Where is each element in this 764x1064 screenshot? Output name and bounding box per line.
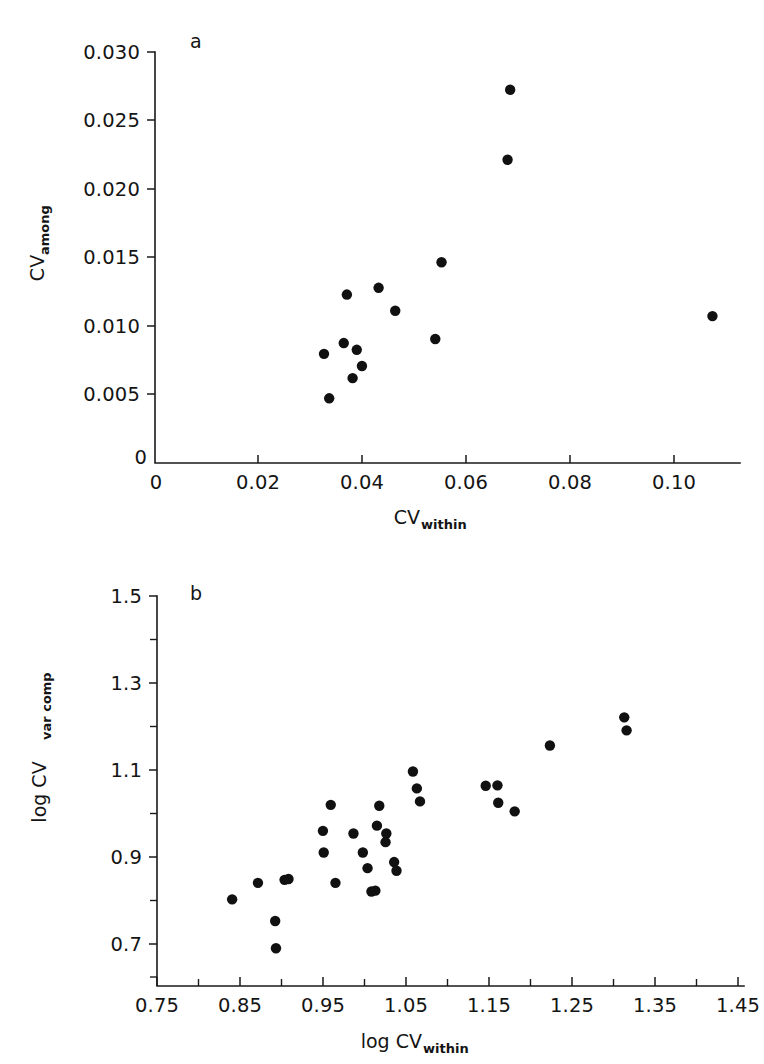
- data-point: [415, 796, 425, 806]
- data-point: [481, 781, 491, 791]
- panel-b: b 1.5 1.3 1.1: [0, 540, 764, 1064]
- data-point: [381, 828, 391, 838]
- panel-a-x-ticklabel: 0.10: [652, 471, 696, 494]
- panel-a-y-ticklabel: 0.015: [83, 246, 140, 269]
- data-point: [373, 283, 383, 293]
- panel-b-x-ticklabel: 1.35: [633, 994, 677, 1017]
- panel-a-x-ticklabel: 0.06: [444, 471, 488, 494]
- data-point: [342, 289, 352, 299]
- data-point: [330, 878, 340, 888]
- panel-a-x-ticklabel: 0: [150, 471, 163, 494]
- panel-b-x-ticklabel: 0.75: [135, 994, 179, 1017]
- panel-b-x-axis-title: log CV within: [361, 1030, 469, 1056]
- data-point: [370, 885, 380, 895]
- panel-a-x-ticklabel: 0.08: [548, 471, 592, 494]
- panel-b-x-ticklabel: 1.25: [550, 994, 594, 1017]
- panel-a-plot: a 0.030 0.025 0.020 0.015 0.010 0.005 0: [0, 0, 764, 540]
- panel-a-x-axis-title-main: CV: [394, 506, 420, 528]
- panel-b-y-axis-title-sub: var comp: [39, 672, 54, 740]
- panel-a-x-ticklabel: 0.02: [236, 471, 280, 494]
- panel-a-y-axis-title-main: CV: [26, 255, 48, 281]
- data-point: [318, 826, 328, 836]
- panel-a-x-ticklabels: 0 0.02 0.04 0.06 0.08 0.10: [150, 471, 696, 494]
- panel-b-y-axis-title-main: log CV: [28, 761, 50, 822]
- data-point: [362, 863, 372, 873]
- data-point: [358, 847, 368, 857]
- panel-a-x-axis-title-sub: within: [421, 517, 467, 532]
- panel-b-y-ticks-minor: [150, 640, 157, 978]
- panel-b-datapoints: [227, 712, 632, 953]
- data-point: [324, 393, 334, 403]
- data-point: [374, 801, 384, 811]
- data-point: [502, 155, 512, 165]
- data-point: [227, 894, 237, 904]
- figure-container: a 0.030 0.025 0.020 0.015 0.010 0.005 0: [0, 0, 764, 1064]
- panel-b-x-ticklabel: 1.45: [716, 994, 760, 1017]
- data-point: [283, 874, 293, 884]
- panel-b-y-ticklabel: 0.9: [110, 846, 142, 869]
- data-point: [412, 783, 422, 793]
- panel-b-y-ticklabel: 1.3: [110, 672, 142, 695]
- data-point: [430, 334, 440, 344]
- panel-a-axis-lines: [155, 52, 740, 463]
- panel-b-x-ticks-minor: [199, 979, 697, 986]
- data-point: [492, 780, 502, 790]
- data-point: [505, 85, 515, 95]
- panel-a-y-ticklabel: 0.005: [83, 383, 140, 406]
- panel-b-x-ticklabel: 0.95: [301, 994, 345, 1017]
- data-point: [357, 361, 367, 371]
- data-point: [319, 349, 329, 359]
- panel-b-axis-lines: [157, 596, 744, 986]
- panel-b-x-ticklabel: 1.05: [384, 994, 428, 1017]
- data-point: [707, 311, 717, 321]
- panel-a-y-ticklabel: 0.010: [83, 315, 140, 338]
- data-point: [271, 943, 281, 953]
- data-point: [545, 740, 555, 750]
- data-point: [348, 828, 358, 838]
- panel-b-y-axis-title: log CV var comp: [28, 672, 54, 822]
- panel-b-plot: b 1.5 1.3 1.1: [0, 540, 764, 1064]
- panel-a-y-axis-title: CV among: [26, 205, 52, 281]
- panel-a-x-ticks: [258, 455, 674, 463]
- panel-a-y-ticklabels: 0.030 0.025 0.020 0.015 0.010 0.005 0: [83, 41, 147, 469]
- panel-a-y-ticklabel: 0.020: [83, 178, 140, 201]
- data-point: [347, 373, 357, 383]
- panel-a-y-ticklabel: 0.030: [83, 41, 140, 64]
- data-point: [339, 338, 349, 348]
- panel-b-x-ticklabel: 1.15: [467, 994, 511, 1017]
- data-point: [352, 345, 362, 355]
- panel-a-datapoints: [319, 85, 718, 404]
- panel-b-x-ticklabel: 0.85: [218, 994, 262, 1017]
- data-point: [619, 712, 629, 722]
- panel-a-x-ticklabel: 0.04: [340, 471, 384, 494]
- data-point: [253, 878, 263, 888]
- panel-a-y-ticklabel: 0.025: [83, 109, 140, 132]
- panel-b-x-axis-title-sub: within: [423, 1041, 469, 1056]
- panel-b-y-ticks-major: [149, 596, 157, 944]
- data-point: [621, 725, 631, 735]
- panel-a-y-ticks: [147, 52, 155, 394]
- panel-b-y-ticklabels: 1.5 1.3 1.1 0.9 0.7: [110, 585, 142, 956]
- data-point: [509, 806, 519, 816]
- data-point: [326, 800, 336, 810]
- data-point: [391, 866, 401, 876]
- panel-a-letter: a: [190, 30, 202, 52]
- data-point: [408, 766, 418, 776]
- data-point: [372, 820, 382, 830]
- panel-b-x-ticklabels: 0.75 0.85 0.95 1.05 1.15 1.25 1.35 1.45: [135, 994, 760, 1017]
- panel-a-x-axis-title: CV within: [394, 506, 467, 532]
- data-point: [493, 798, 503, 808]
- panel-b-letter: b: [190, 582, 202, 604]
- panel-b-y-ticklabel: 0.7: [110, 933, 142, 956]
- data-point: [436, 257, 446, 267]
- panel-a-y-ticklabel-zero: 0: [134, 446, 147, 469]
- panel-b-y-ticklabel: 1.1: [110, 759, 142, 782]
- panel-a-y-axis-title-sub: among: [37, 205, 52, 255]
- panel-a: a 0.030 0.025 0.020 0.015 0.010 0.005 0: [0, 0, 764, 540]
- panel-b-x-axis-title-main: log CV: [361, 1030, 422, 1052]
- panel-b-y-ticklabel: 1.5: [110, 585, 142, 608]
- data-point: [390, 306, 400, 316]
- data-point: [270, 916, 280, 926]
- data-point: [319, 847, 329, 857]
